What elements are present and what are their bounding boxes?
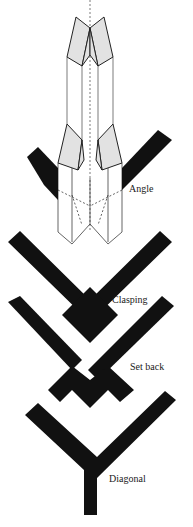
right-lower-cap xyxy=(98,124,122,170)
label-diagonal: Diagonal xyxy=(109,473,146,484)
joint-diagram xyxy=(0,0,193,527)
label-angle: Angle xyxy=(129,183,153,194)
angle-isometric xyxy=(58,0,122,244)
left-lower-cap xyxy=(58,124,82,170)
diagonal-plan xyxy=(25,391,176,515)
label-set-back: Set back xyxy=(130,361,164,372)
label-clasping: Clasping xyxy=(112,294,148,305)
